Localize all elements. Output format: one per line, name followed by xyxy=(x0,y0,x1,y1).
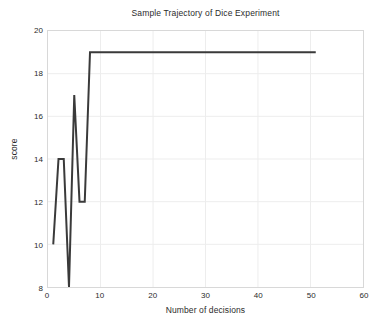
y-tick-10: 10 xyxy=(21,241,43,250)
y-axis-tick-labels: 20 18 16 14 12 10 8 xyxy=(19,30,43,288)
y-axis-label: score xyxy=(9,119,19,179)
x-tick-40: 40 xyxy=(243,291,273,300)
x-tick-30: 30 xyxy=(191,291,221,300)
y-tick-16: 16 xyxy=(21,112,43,121)
trajectory-line xyxy=(53,52,316,287)
y-tick-14: 14 xyxy=(21,155,43,164)
x-tick-60: 60 xyxy=(349,291,379,300)
plot-area xyxy=(47,30,364,288)
x-tick-20: 20 xyxy=(138,291,168,300)
x-tick-50: 50 xyxy=(296,291,326,300)
plot-canvas xyxy=(48,31,363,287)
y-tick-18: 18 xyxy=(21,69,43,78)
y-tick-20: 20 xyxy=(21,26,43,35)
x-axis-tick-labels: 0 10 20 30 40 50 60 xyxy=(47,291,364,303)
chart-figure: Sample Trajectory of Dice Experiment sco… xyxy=(0,0,387,330)
x-tick-0: 0 xyxy=(32,291,62,300)
x-tick-10: 10 xyxy=(85,291,115,300)
chart-title: Sample Trajectory of Dice Experiment xyxy=(47,8,364,18)
x-axis-label: Number of decisions xyxy=(47,305,364,315)
y-tick-12: 12 xyxy=(21,198,43,207)
